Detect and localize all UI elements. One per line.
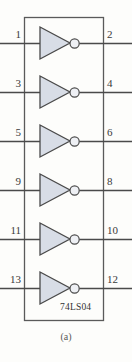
pin-number-1: 1	[0, 29, 21, 40]
pin-number-8: 8	[107, 176, 132, 187]
inversion-bubble-5	[70, 235, 79, 244]
pin-number-9: 9	[0, 176, 21, 187]
inverter-triangle-2	[40, 76, 70, 108]
inversion-bubble-6	[70, 284, 79, 293]
inversion-bubble-3	[70, 137, 79, 146]
inverter-triangle-5	[40, 223, 70, 255]
inverter-triangle-6	[40, 272, 70, 304]
inversion-bubble-4	[70, 186, 79, 195]
inverter-triangle-3	[40, 125, 70, 157]
pin-number-3: 3	[0, 78, 21, 89]
hex-inverter-figure: 1234569811101312 74LS04 (a)	[0, 0, 132, 362]
figure-caption: (a)	[0, 331, 132, 342]
inversion-bubble-2	[70, 88, 79, 97]
inverter-triangle-1	[40, 27, 70, 59]
chip-part-number-label: 74LS04	[60, 302, 91, 312]
inversion-bubble-1	[70, 39, 79, 48]
ic-package-outline	[25, 18, 104, 321]
pin-number-2: 2	[107, 29, 132, 40]
pin-number-13: 13	[0, 274, 21, 285]
pin-number-6: 6	[107, 127, 132, 138]
pin-number-10: 10	[107, 225, 132, 236]
pin-number-4: 4	[107, 78, 132, 89]
inverter-triangle-4	[40, 174, 70, 206]
pin-number-5: 5	[0, 127, 21, 138]
pin-number-12: 12	[107, 274, 132, 285]
pin-number-11: 11	[0, 225, 21, 236]
